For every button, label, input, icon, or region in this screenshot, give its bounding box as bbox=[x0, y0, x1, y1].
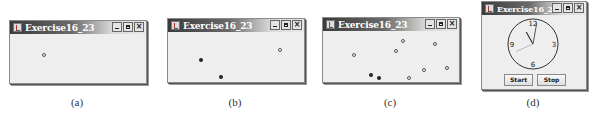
ball bbox=[219, 75, 223, 79]
window-c: Exercise16_23 × bbox=[322, 17, 460, 83]
numeral-9: 9 bbox=[510, 41, 514, 49]
ball bbox=[422, 68, 426, 72]
start-button[interactable]: Start bbox=[504, 74, 533, 86]
window-title: Exercise16_24 bbox=[497, 4, 558, 14]
window-title: Exercise16_23 bbox=[338, 20, 407, 30]
ball bbox=[401, 39, 405, 43]
minimize-icon[interactable] bbox=[552, 3, 562, 13]
window-title: Exercise16_23 bbox=[25, 23, 94, 33]
window-d: Exercise16_24 × 12 3 6 9 Start Stop bbox=[481, 1, 587, 90]
maximize-icon[interactable] bbox=[281, 20, 291, 30]
ball bbox=[433, 42, 437, 46]
caption-b: (b) bbox=[229, 96, 242, 108]
java-app-icon bbox=[485, 4, 494, 13]
minimize-icon[interactable] bbox=[270, 20, 280, 30]
ball bbox=[407, 76, 411, 80]
title-bar[interactable]: Exercise16_23 × bbox=[168, 19, 304, 32]
ball-panel[interactable] bbox=[323, 31, 459, 82]
window-title: Exercise16_23 bbox=[183, 21, 252, 31]
maximize-icon[interactable] bbox=[436, 19, 446, 29]
caption-d: (d) bbox=[527, 96, 540, 108]
title-bar[interactable]: Exercise16_24 × bbox=[482, 2, 586, 15]
ball-panel[interactable] bbox=[10, 34, 146, 83]
stop-button[interactable]: Stop bbox=[537, 74, 566, 86]
java-app-icon bbox=[13, 23, 22, 32]
ball bbox=[278, 48, 282, 52]
title-bar[interactable]: Exercise16_23 × bbox=[323, 18, 459, 31]
ball bbox=[42, 53, 46, 57]
window-b: Exercise16_23 × bbox=[167, 18, 305, 83]
java-app-icon bbox=[171, 21, 180, 30]
ball bbox=[352, 53, 356, 57]
window-a: Exercise16_23 × bbox=[9, 20, 147, 84]
ball-panel[interactable] bbox=[168, 32, 304, 82]
close-icon[interactable]: × bbox=[292, 20, 302, 30]
ball bbox=[394, 49, 398, 53]
close-icon[interactable]: × bbox=[134, 22, 144, 32]
hour-hand bbox=[526, 32, 533, 44]
minimize-icon[interactable] bbox=[112, 22, 122, 32]
ball bbox=[445, 66, 449, 70]
maximize-icon[interactable] bbox=[123, 22, 133, 32]
clock-panel: 12 3 6 9 Start Stop bbox=[482, 15, 586, 89]
maximize-icon[interactable] bbox=[563, 3, 573, 13]
java-app-icon bbox=[326, 20, 335, 29]
close-icon[interactable]: × bbox=[447, 19, 457, 29]
caption-c: (c) bbox=[384, 96, 396, 108]
ball bbox=[199, 58, 203, 62]
ball bbox=[369, 73, 373, 77]
numeral-3: 3 bbox=[552, 41, 556, 49]
second-hand bbox=[516, 44, 533, 52]
title-bar[interactable]: Exercise16_23 × bbox=[10, 21, 146, 34]
ball bbox=[377, 76, 381, 80]
numeral-6: 6 bbox=[531, 61, 536, 69]
close-icon[interactable]: × bbox=[574, 3, 584, 13]
minimize-icon[interactable] bbox=[425, 19, 435, 29]
caption-a: (a) bbox=[71, 96, 83, 108]
clock-face: 12 3 6 9 bbox=[482, 15, 586, 89]
